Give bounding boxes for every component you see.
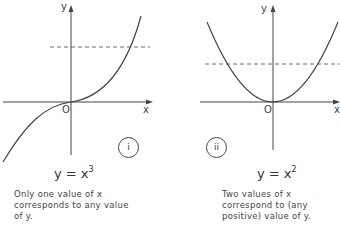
- caption-line: positive) value of y.: [222, 211, 311, 222]
- equation-base: y = x: [54, 166, 89, 181]
- caption-line: Only one value of x: [14, 189, 129, 200]
- figure-marker-i: i: [118, 137, 139, 158]
- caption-quadratic: Two values of x correspond to (any posit…: [222, 189, 311, 222]
- equation-base: y = x: [257, 166, 292, 181]
- y-axis-label: y: [261, 3, 267, 14]
- caption-line: correspond to (any: [222, 200, 311, 211]
- y-axis-arrow-icon: [69, 5, 74, 12]
- graph-quadratic: [200, 5, 340, 150]
- equation-exponent: 2: [292, 165, 297, 174]
- origin-label: O: [62, 104, 70, 115]
- figure-marker-ii: ii: [206, 137, 227, 158]
- equation-exponent: 3: [89, 165, 94, 174]
- origin-label: O: [264, 104, 272, 115]
- equation-cubic: y = x3: [54, 165, 94, 181]
- y-axis-arrow-icon: [271, 5, 276, 12]
- caption-line: Two values of x: [222, 189, 311, 200]
- equation-quadratic: y = x2: [257, 165, 297, 181]
- caption-line: corresponds to any value: [14, 200, 129, 211]
- x-axis-label: x: [334, 104, 340, 115]
- caption-cubic: Only one value of x corresponds to any v…: [14, 189, 129, 222]
- caption-line: of y.: [14, 211, 129, 222]
- y-axis-label: y: [61, 1, 67, 12]
- x-axis-label: x: [143, 104, 149, 115]
